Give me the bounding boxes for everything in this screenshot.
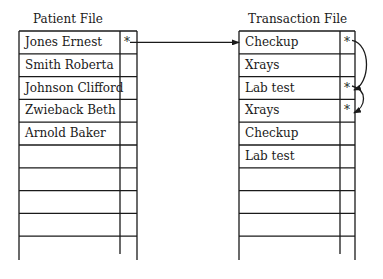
transaction-pointer-field: * [344, 99, 350, 122]
pointer-arrow [352, 40, 367, 90]
transaction-record-name: Lab test [245, 77, 295, 100]
transaction-pointer-field: * [344, 31, 350, 54]
patient-record-name: Johnson Clifford [25, 77, 123, 100]
patient-pointer-field: * [124, 31, 130, 54]
patient-record-name: Zwieback Beth [25, 99, 116, 122]
transaction-record-name: Xrays [245, 54, 279, 77]
transaction-record-name: Checkup [245, 31, 298, 54]
patient-record-name: Smith Roberta [25, 54, 114, 77]
transaction-record-name: Xrays [245, 99, 279, 122]
patient-record-name: Jones Ernest [25, 31, 102, 54]
transaction-pointer-field: * [344, 77, 350, 100]
transaction-record-name: Lab test [245, 145, 295, 168]
transaction-record-name: Checkup [245, 122, 298, 145]
patient-record-name: Arnold Baker [25, 122, 106, 145]
